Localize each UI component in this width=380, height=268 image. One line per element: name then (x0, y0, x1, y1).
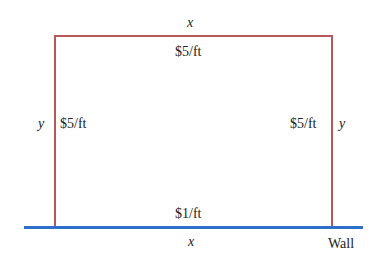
top-dimension-label: x (187, 15, 193, 31)
right-cost-label: $5/ft (290, 116, 316, 132)
wall-line (24, 226, 363, 229)
wall-label: Wall (328, 236, 354, 252)
bottom-cost-label: $1/ft (175, 206, 201, 222)
fence-right (331, 35, 333, 227)
fence-left (54, 35, 56, 227)
top-cost-label: $5/ft (175, 44, 201, 60)
fence-top (54, 35, 333, 37)
bottom-dimension-label: x (188, 234, 194, 250)
right-dimension-label: y (339, 116, 345, 132)
left-dimension-label: y (38, 116, 44, 132)
left-cost-label: $5/ft (60, 116, 86, 132)
